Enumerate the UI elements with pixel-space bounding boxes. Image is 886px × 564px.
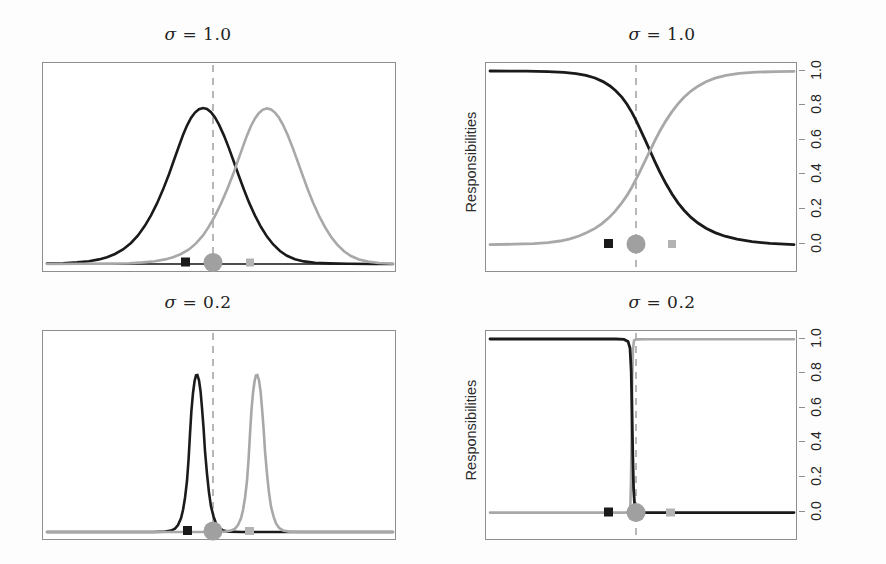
tick-label-0.2: 0.2 xyxy=(808,456,824,496)
density-curve-component-2 xyxy=(47,375,393,532)
tick-mark xyxy=(799,511,805,512)
plot-canvas-bottom-left xyxy=(43,331,397,541)
panel-bottom-right: σ = 0.2 Responsibilities 1 xyxy=(443,282,886,550)
tick-mark xyxy=(799,372,805,373)
plot-canvas-bottom-right xyxy=(486,331,798,541)
sigma-symbol: σ xyxy=(628,24,640,44)
plot-frame-top-right xyxy=(485,62,797,272)
plot-canvas-top-right xyxy=(486,63,798,273)
equals-symbol: = xyxy=(182,292,197,312)
density-curve-component-1 xyxy=(47,108,393,264)
panel-title-bottom-right: σ = 0.2 xyxy=(485,292,839,312)
marker-dark-square xyxy=(183,526,192,535)
tick-mark xyxy=(799,407,805,408)
density-curve-component-2 xyxy=(47,108,393,264)
marker-gray-circle xyxy=(627,503,646,522)
equals-symbol: = xyxy=(646,292,661,312)
responsibility-curve-component-1 xyxy=(490,339,794,513)
panel-title-top-right: σ = 1.0 xyxy=(485,24,839,44)
tick-label-0.4: 0.4 xyxy=(808,421,824,461)
tick-mark xyxy=(799,476,805,477)
tick-mark xyxy=(799,338,805,339)
marker-gray-circle xyxy=(627,235,646,254)
plot-frame-top-left xyxy=(42,62,396,272)
responsibility-curve-component-1 xyxy=(490,71,794,245)
marker-light-square xyxy=(245,527,254,535)
tick-label-0.8: 0.8 xyxy=(808,84,824,124)
sigma-value: 0.2 xyxy=(667,292,696,312)
tick-mark xyxy=(799,441,805,442)
tick-mark xyxy=(799,208,805,209)
sigma-value: 1.0 xyxy=(667,24,696,44)
tick-mark xyxy=(799,139,805,140)
sigma-value: 1.0 xyxy=(203,24,232,44)
plot-frame-bottom-right xyxy=(485,330,797,540)
marker-dark-square xyxy=(604,508,613,517)
sigma-symbol: σ xyxy=(628,292,640,312)
sigma-symbol: σ xyxy=(164,292,176,312)
y-axis-label-responsibilities: Responsibilities xyxy=(463,340,479,520)
plot-canvas-top-left xyxy=(43,63,397,273)
equals-symbol: = xyxy=(182,24,197,44)
panel-bottom-left: σ = 0.2 xyxy=(0,282,443,550)
tick-mark xyxy=(799,173,805,174)
tick-label-0.8: 0.8 xyxy=(808,352,824,392)
sigma-value: 0.2 xyxy=(203,292,232,312)
tick-mark xyxy=(799,104,805,105)
tick-label-0.0: 0.0 xyxy=(808,223,824,263)
marker-gray-circle xyxy=(204,253,223,272)
panel-title-top-left: σ = 1.0 xyxy=(0,24,396,44)
marker-gray-circle xyxy=(204,522,223,541)
tick-mark xyxy=(799,70,805,71)
equals-symbol: = xyxy=(646,24,661,44)
figure-root: σ = 1.0 σ = xyxy=(0,0,886,564)
y-axis-label-responsibilities: Responsibilities xyxy=(463,72,479,252)
responsibility-curve-component-2 xyxy=(490,339,794,512)
tick-label-0.0: 0.0 xyxy=(808,491,824,531)
tick-label-0.4: 0.4 xyxy=(808,153,824,193)
tick-label-0.2: 0.2 xyxy=(808,188,824,228)
plot-frame-bottom-left xyxy=(42,330,396,540)
responsibility-curve-component-2 xyxy=(490,71,794,244)
marker-light-square xyxy=(246,259,254,267)
marker-dark-square xyxy=(604,239,613,248)
panel-title-bottom-left: σ = 0.2 xyxy=(0,292,396,312)
marker-light-square xyxy=(666,509,675,517)
panel-top-right: σ = 1.0 Responsibilities xyxy=(443,14,886,282)
panel-top-left: σ = 1.0 xyxy=(0,14,443,282)
marker-light-square xyxy=(668,240,676,248)
marker-dark-square xyxy=(181,258,190,267)
sigma-symbol: σ xyxy=(164,24,176,44)
tick-mark xyxy=(799,243,805,244)
density-curve-component-1 xyxy=(47,375,393,532)
